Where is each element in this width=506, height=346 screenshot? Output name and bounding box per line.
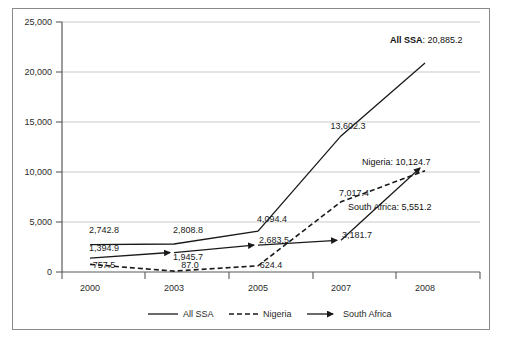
line-chart: 25,000 20,000 15,000 10,000 5,000 0 2000… [0,0,506,346]
data-label: 2,808.8 [173,225,203,235]
end-label-south-africa: South Africa: 5,551.2 [348,202,432,212]
y-tick-label: 15,000 [24,117,52,127]
end-label-all-ssa-name: All SSA [390,35,423,45]
data-label: 757.5 [93,260,116,270]
data-label: 2,742.8 [89,225,119,235]
y-tick-label: 0 [47,267,52,277]
x-tick-label: 2000 [80,283,100,293]
end-label-all-ssa: All SSA: 20,885.2 [390,35,463,45]
legend-item-south-africa[interactable]: South Africa [307,309,392,319]
y-tick-label: 10,000 [24,167,52,177]
end-label-nigeria: Nigeria: 10,124.7 [362,157,431,167]
x-tick-label: 2008 [415,283,435,293]
data-label: 624.4 [260,260,283,270]
legend-item-all-ssa[interactable]: All SSA [148,309,214,319]
x-tick-label: 2003 [164,283,184,293]
x-tick-label: 2007 [331,283,351,293]
end-label-all-ssa-value: 20,885.2 [428,35,463,45]
end-label-nigeria-value: 10,124.7 [396,157,431,167]
legend-label: South Africa [343,309,392,319]
data-label: 2,683.5 [259,235,289,245]
data-labels-all-ssa: 2,742.8 2,808.8 4,094.4 13,602.3 [89,121,366,235]
data-labels-nigeria: 757.5 87.0 624.4 7,017.4 [93,188,369,270]
y-axis-tick-labels: 25,000 20,000 15,000 10,000 5,000 0 [24,17,52,277]
y-tick-label: 20,000 [24,67,52,77]
end-label-nigeria-name: Nigeria [362,157,391,167]
data-label: 4,094.4 [257,214,287,224]
data-label: 7,017.4 [339,188,369,198]
x-tick-label: 2005 [248,283,268,293]
legend-item-nigeria[interactable]: Nigeria [229,309,292,319]
data-label: 1,945.7 [173,252,203,262]
data-label: 3,181.7 [342,230,372,240]
y-tick-label: 25,000 [24,17,52,27]
legend-label: Nigeria [263,309,292,319]
end-label-south-africa-value: 5,551.2 [402,202,432,212]
gridlines [62,22,480,222]
data-label: 1,394.9 [89,243,119,253]
data-label: 13,602.3 [330,121,365,131]
y-tick-label: 5,000 [29,217,52,227]
x-axis-tick-labels: 2000 2003 2005 2007 2008 [80,283,435,293]
end-label-south-africa-name: South Africa [348,202,397,212]
legend-label: All SSA [183,309,214,319]
chart-legend: All SSA Nigeria South Africa [148,309,392,319]
